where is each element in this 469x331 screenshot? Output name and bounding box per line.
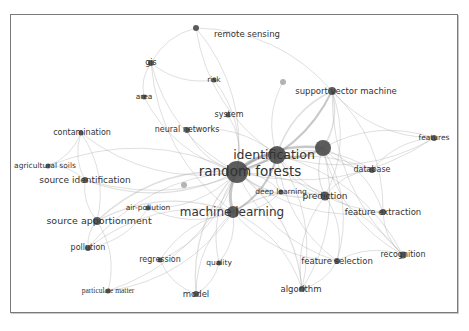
label-recognition: recognition	[380, 251, 425, 259]
label-feature-selection: feature selection	[301, 257, 373, 266]
label-contamination: contamination	[53, 129, 111, 137]
edge-identification-remote_sensing	[196, 28, 277, 155]
label-deep-learning: deep learning	[255, 188, 307, 196]
label-source-identification: source identification	[39, 176, 131, 185]
label-risk: risk	[207, 76, 220, 84]
edge-hub-support_vector_machine	[323, 91, 335, 148]
label-identification: identification	[233, 149, 315, 162]
label-database: database	[353, 166, 390, 174]
label-quality: quality	[206, 259, 232, 267]
label-algorithm: algorithm	[280, 285, 321, 294]
edge-support_vector_machine-features	[332, 91, 434, 138]
edge-machine_learning-algorithm	[233, 212, 302, 289]
node-hub[interactable]	[315, 140, 331, 156]
edge-gis-remote_sensing	[151, 28, 196, 63]
edge-source_identification-contamination	[78, 133, 85, 180]
node-minor1[interactable]	[280, 79, 286, 85]
label-particulate-matter: particulate matter	[82, 287, 135, 295]
label-gis: gis	[145, 59, 156, 67]
node-remote-sensing[interactable]	[193, 25, 199, 31]
edge-random_forests-area	[144, 97, 237, 172]
node-minor2[interactable]	[181, 182, 187, 188]
label-pollution: pollution	[71, 244, 106, 252]
label-neural-networks: neural networks	[155, 126, 220, 134]
label-machine-learning: machine learning	[180, 206, 284, 218]
edge-machine_learning-model	[196, 212, 233, 294]
label-agricultural-soils: agricultural soils	[14, 162, 76, 170]
edge-gis-risk	[151, 63, 214, 81]
label-air-pollution: air-pollution	[126, 204, 171, 212]
label-features: features	[419, 134, 450, 142]
label-area: area	[136, 93, 153, 101]
label-support-vector-machine: support vector machine	[295, 87, 397, 96]
edge-machine_learning-quality	[219, 212, 234, 263]
label-prediction: prediction	[302, 192, 347, 201]
label-feature-extraction: feature extraction	[345, 208, 422, 217]
label-system: system	[215, 111, 244, 119]
label-model: model	[183, 290, 209, 299]
label-regression: regression	[139, 256, 181, 264]
edge-source_apportionment-particulate_matter	[97, 221, 111, 291]
label-random-forests: random forests	[199, 165, 302, 179]
label-remote-sensing: remote sensing	[214, 30, 280, 39]
label-source-apportionment: source apportionment	[46, 216, 151, 226]
